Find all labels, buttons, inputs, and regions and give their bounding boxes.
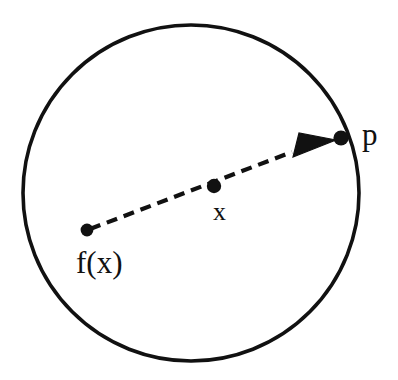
point-label-x: x bbox=[213, 197, 226, 226]
figure-canvas: f(x) x p bbox=[0, 0, 398, 380]
point-dot-fx bbox=[81, 224, 94, 237]
diagram-svg: f(x) x p bbox=[0, 0, 398, 380]
disk-boundary-circle bbox=[23, 25, 359, 361]
point-label-fx: f(x) bbox=[76, 245, 122, 280]
arrowhead-icon bbox=[293, 133, 336, 157]
point-dot-x bbox=[207, 179, 221, 193]
point-dot-p bbox=[333, 130, 348, 145]
dashed-arrow-shaft bbox=[90, 152, 292, 229]
point-label-p: p bbox=[362, 117, 378, 152]
